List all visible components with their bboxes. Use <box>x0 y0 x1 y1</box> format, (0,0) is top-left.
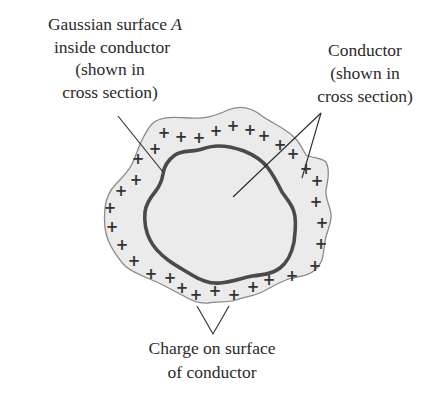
plus-charge: + <box>115 182 128 200</box>
plus-charge: + <box>310 193 323 211</box>
gaussian-label-line-2: inside conductor <box>54 37 170 57</box>
plus-charge: + <box>287 145 300 163</box>
plus-charge: + <box>309 257 322 275</box>
plus-charge: + <box>130 171 143 189</box>
plus-charge: + <box>175 128 188 146</box>
plus-charge: + <box>128 252 141 270</box>
plus-charge: + <box>132 150 145 168</box>
plus-charge: + <box>116 236 129 254</box>
plus-charge: + <box>244 121 257 139</box>
plus-charge: + <box>263 271 276 289</box>
plus-charge: + <box>210 122 223 140</box>
plus-charge: + <box>227 117 240 135</box>
plus-charge: + <box>274 136 287 154</box>
conductor-label-line-2: (shown in <box>330 63 400 83</box>
surface-charge-leader <box>197 306 229 334</box>
gaussian-label-line-4: cross section) <box>62 82 158 102</box>
plus-charge: + <box>149 140 162 158</box>
conductor-label-line-1: Conductor <box>328 40 402 60</box>
conductor-label-line-3: cross section) <box>317 86 413 106</box>
plus-charge: + <box>193 129 206 147</box>
plus-charge: + <box>145 265 158 283</box>
plus-charge: + <box>106 218 119 236</box>
svg-text:Gaussian surface A: Gaussian surface A <box>48 14 182 34</box>
plus-charge: + <box>286 267 299 285</box>
plus-charge: + <box>315 235 328 253</box>
surface-charge-label: Charge on surface of conductor <box>149 338 276 382</box>
gaussian-label-line-3: (shown in <box>75 59 145 79</box>
surface-charge-label-line-1: Charge on surface <box>149 338 276 358</box>
plus-charge: + <box>190 286 203 304</box>
gaussian-surface-label: Gaussian surface A inside conductor (sho… <box>48 14 182 102</box>
conductor-label: Conductor (shown in cross section) <box>317 40 413 106</box>
plus-charge: + <box>247 278 260 296</box>
plus-charge: + <box>316 214 329 232</box>
plus-charge: + <box>258 127 271 145</box>
conductor-gauss-diagram: Gaussian surface A inside conductor (sho… <box>0 0 432 404</box>
plus-charge: + <box>311 172 324 190</box>
plus-charge: + <box>209 282 222 300</box>
plus-charge: + <box>164 269 177 287</box>
gaussian-label-symbol-a: A <box>170 14 182 34</box>
surface-charge-label-line-2: of conductor <box>168 362 257 382</box>
plus-charge: + <box>228 286 241 304</box>
plus-charge: + <box>176 279 189 297</box>
plus-charge: + <box>104 199 117 217</box>
gaussian-label-line-1: Gaussian surface <box>48 14 171 34</box>
